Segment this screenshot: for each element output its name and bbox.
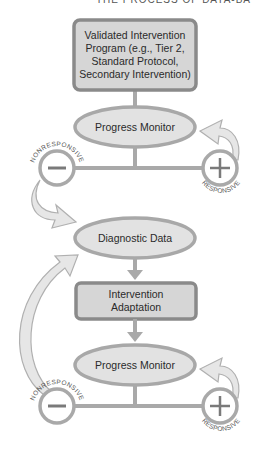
nonresponsive-arrow-2-icon: [20, 255, 78, 395]
down-arrow-icon: [127, 270, 143, 280]
progress-monitor-2-label: Progress Monitor: [80, 359, 190, 372]
validated-intervention-label: Validated Intervention Program (e.g., Ti…: [78, 29, 192, 81]
nonresponsive-arrow-1-icon: [32, 180, 76, 228]
progress-monitor-1-label: Progress Monitor: [80, 121, 190, 134]
intervention-adaptation-label: Intervention Adaptation: [96, 288, 176, 314]
diagnostic-data-label: Diagnostic Data: [80, 232, 190, 245]
down-arrow-icon: [127, 332, 143, 342]
